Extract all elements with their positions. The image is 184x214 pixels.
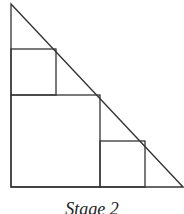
large-square: [11, 95, 100, 187]
right-small-square: [100, 141, 145, 187]
triangle-squares-diagram: [0, 0, 184, 214]
figure-caption: Stage 2: [0, 199, 184, 214]
upper-small-square: [11, 49, 56, 95]
